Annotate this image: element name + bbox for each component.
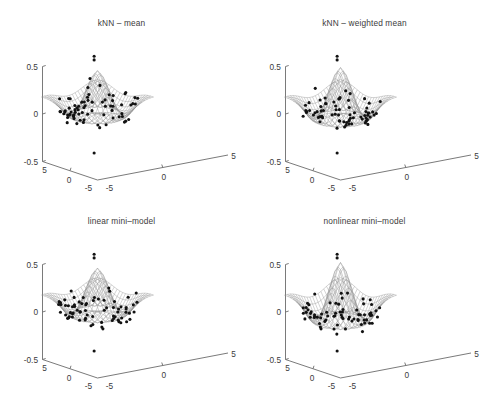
y-tick-label-far: 5 <box>231 349 236 359</box>
scatter-points <box>302 253 381 353</box>
subplot-knn-weighted-mean: kNN – weighted mean0.50-0.550-5-505 <box>243 0 486 198</box>
subplot-nonlinear-mini-model: nonlinear mini–model0.50-0.550-5-505 <box>243 198 486 396</box>
z-tick-label-top: 0.5 <box>269 260 281 270</box>
y-tick-label-far: 5 <box>474 151 479 161</box>
y-tick-label-mid: 0 <box>161 172 166 182</box>
y-tick-label-far: 5 <box>474 349 479 359</box>
axes-3d: 0.50-0.550-5-505 <box>243 198 486 396</box>
z-tick-label-top: 0.5 <box>269 62 281 72</box>
mesh-surface <box>285 263 397 330</box>
y-tick-label-far: 5 <box>231 151 236 161</box>
x-tick-label-far: -5 <box>85 381 93 391</box>
x-tick-label-near: 5 <box>42 363 47 373</box>
x-tick-label-far: -5 <box>328 183 336 193</box>
x-tick-label-mid: 0 <box>310 175 315 185</box>
z-tick-label-bottom: -0.5 <box>267 157 282 167</box>
y-tick-label-near: -5 <box>106 183 114 193</box>
axes-3d: 0.50-0.550-5-505 <box>0 198 243 396</box>
y-tick-label-mid: 0 <box>161 370 166 380</box>
z-tick-label-mid: 0 <box>33 307 38 317</box>
axes-3d: 0.50-0.550-5-505 <box>243 0 486 198</box>
z-tick-label-bottom: -0.5 <box>24 355 39 365</box>
subplot-linear-mini-model: linear mini–model0.50-0.550-5-505 <box>0 198 243 396</box>
z-tick-label-top: 0.5 <box>26 62 38 72</box>
axis-lines <box>286 66 472 181</box>
z-tick-label-bottom: -0.5 <box>267 355 282 365</box>
y-tick-label-mid: 0 <box>404 370 409 380</box>
x-tick-label-far: -5 <box>85 183 93 193</box>
x-tick-label-mid: 0 <box>67 373 72 383</box>
axis-lines <box>43 66 229 181</box>
scatter-points <box>57 253 138 353</box>
scatter-points <box>58 55 139 155</box>
x-tick-label-near: 5 <box>285 363 290 373</box>
axes-3d: 0.50-0.550-5-505 <box>0 0 243 198</box>
z-tick-label-mid: 0 <box>33 109 38 119</box>
y-tick-label-near: -5 <box>349 381 357 391</box>
x-tick-label-mid: 0 <box>310 373 315 383</box>
z-tick-label-mid: 0 <box>276 109 281 119</box>
axis-lines <box>43 264 229 379</box>
z-tick-label-bottom: -0.5 <box>24 157 39 167</box>
y-tick-label-mid: 0 <box>404 172 409 182</box>
subplot-knn-mean: kNN – mean0.50-0.550-5-505 <box>0 0 243 198</box>
x-tick-label-mid: 0 <box>67 175 72 185</box>
x-tick-label-far: -5 <box>328 381 336 391</box>
mesh-surface <box>42 268 154 323</box>
figure-canvas: kNN – mean0.50-0.550-5-505kNN – weighted… <box>0 0 486 396</box>
y-tick-label-near: -5 <box>349 183 357 193</box>
x-tick-label-near: 5 <box>42 165 47 175</box>
z-tick-label-top: 0.5 <box>26 260 38 270</box>
z-tick-label-mid: 0 <box>276 307 281 317</box>
x-tick-label-near: 5 <box>285 165 290 175</box>
y-tick-label-near: -5 <box>106 381 114 391</box>
